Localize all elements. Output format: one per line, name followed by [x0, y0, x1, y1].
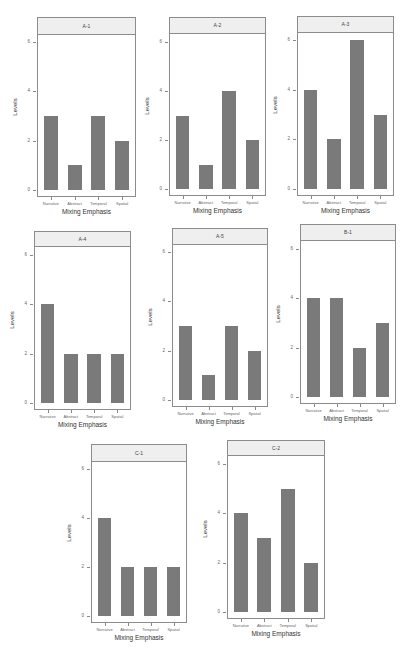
x-tick	[206, 196, 207, 199]
x-tick	[151, 623, 152, 626]
panel-title: B-1	[300, 224, 396, 241]
x-tick	[288, 619, 289, 622]
bar-temporal	[353, 348, 366, 397]
y-tick	[30, 304, 33, 305]
x-tick	[122, 197, 123, 200]
y-tick	[33, 42, 36, 43]
bar-narrative	[304, 90, 317, 189]
x-axis-title: Mixing Emphasis	[300, 415, 396, 422]
x-tick	[380, 196, 381, 199]
x-tick	[94, 410, 95, 413]
y-tick	[33, 190, 36, 191]
y-tick-label: 4	[210, 510, 220, 515]
y-tick	[87, 469, 90, 470]
x-axis-title: Mixing Emphasis	[37, 208, 136, 215]
y-tick	[168, 351, 171, 352]
y-tick-label: 6	[20, 39, 30, 44]
bar-abstract	[257, 538, 271, 612]
x-axis-title: Mixing Emphasis	[169, 207, 266, 214]
y-axis-title: Levels	[147, 302, 153, 332]
x-tick	[105, 623, 106, 626]
bar-narrative	[234, 513, 248, 612]
x-tick	[264, 619, 265, 622]
y-tick-label: 6	[17, 252, 27, 257]
bar-spatial	[246, 140, 259, 189]
x-tick	[311, 619, 312, 622]
y-tick-label: 2	[283, 345, 293, 350]
y-tick	[165, 42, 168, 43]
x-tick	[314, 404, 315, 407]
x-tick	[360, 404, 361, 407]
y-axis-title: Levels	[12, 92, 18, 122]
y-tick-label: 0	[17, 400, 27, 405]
x-tick	[241, 619, 242, 622]
bar-narrative	[179, 326, 192, 400]
x-tick	[71, 410, 72, 413]
chart-panel-a-5: A-5NarrativeAbstractTemporalSpatial0246M…	[172, 228, 268, 407]
bar-narrative	[41, 304, 54, 403]
panel-title: C-1	[91, 444, 187, 462]
y-tick	[168, 301, 171, 302]
x-tick-label: Spatial	[365, 200, 395, 205]
chart-panel-b-1: B-1NarrativeAbstractTemporalSpatial0246M…	[300, 224, 396, 404]
y-tick	[165, 189, 168, 190]
chart-panel-c-2: C-2NarrativeAbstractTemporalSpatial0246M…	[227, 440, 325, 619]
x-tick	[383, 404, 384, 407]
y-tick	[296, 249, 299, 250]
y-axis-title: Levels	[144, 91, 150, 121]
bar-temporal	[144, 567, 157, 616]
bar-temporal	[350, 40, 363, 189]
x-tick-label: Spatial	[107, 201, 137, 206]
y-tick-label: 2	[155, 348, 165, 353]
y-tick-label: 2	[20, 138, 30, 143]
y-tick	[30, 255, 33, 256]
x-tick	[98, 197, 99, 200]
y-tick-label: 6	[152, 39, 162, 44]
y-tick	[165, 140, 168, 141]
bar-abstract	[68, 165, 82, 190]
bar-abstract	[64, 354, 77, 403]
y-tick-label: 2	[74, 564, 84, 569]
bar-temporal	[87, 354, 100, 403]
bar-abstract	[121, 567, 134, 616]
x-tick-label: Spatial	[296, 623, 326, 628]
panel-title: A-5	[172, 228, 268, 245]
y-axis-title: Levels	[272, 90, 278, 120]
y-tick	[168, 252, 171, 253]
y-tick	[33, 141, 36, 142]
y-tick-label: 4	[280, 87, 290, 92]
y-tick-label: 6	[280, 37, 290, 42]
chart-panel-a-2: A-2NarrativeAbstractTemporalSpatial0246M…	[169, 17, 266, 196]
y-tick	[168, 400, 171, 401]
x-tick	[128, 623, 129, 626]
y-tick	[296, 397, 299, 398]
bar-narrative	[176, 116, 189, 190]
y-tick	[296, 298, 299, 299]
x-tick-label: Spatial	[368, 408, 398, 413]
y-tick-label: 0	[210, 609, 220, 614]
panel-title: A-3	[297, 16, 394, 33]
x-axis-title: Mixing Emphasis	[172, 418, 268, 425]
x-tick	[209, 407, 210, 410]
x-tick-label: Spatial	[240, 411, 270, 416]
x-tick-label: Spatial	[159, 627, 189, 632]
y-tick-label: 4	[155, 298, 165, 303]
x-tick	[311, 196, 312, 199]
bar-temporal	[222, 91, 235, 189]
y-tick	[87, 518, 90, 519]
y-tick	[87, 616, 90, 617]
bar-spatial	[167, 567, 180, 616]
x-tick	[337, 404, 338, 407]
y-tick-label: 6	[210, 461, 220, 466]
bar-abstract	[202, 375, 215, 400]
y-tick-label: 4	[283, 295, 293, 300]
chart-panel-a-1: A-1NarrativeAbstractTemporalSpatial0246M…	[37, 17, 136, 197]
bar-spatial	[115, 141, 129, 190]
y-tick-label: 4	[152, 88, 162, 93]
y-tick-label: 2	[210, 560, 220, 565]
y-tick-label: 6	[283, 246, 293, 251]
panel-title: A-4	[34, 231, 131, 247]
y-tick-label: 0	[280, 186, 290, 191]
y-tick	[87, 567, 90, 568]
x-axis-title: Mixing Emphasis	[297, 207, 394, 214]
